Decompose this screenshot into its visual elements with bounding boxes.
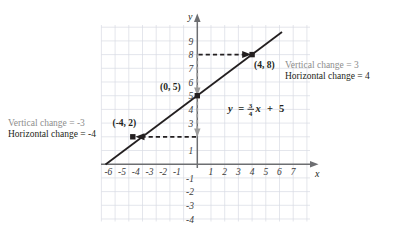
coordinate-plane: y x -6 -5 -4 -3 -2 -1 1 2 3 4 5 6 7 9 8 … [0,0,404,245]
equation-equals: = [238,103,244,114]
x-tick: 7 [291,167,297,177]
x-tick: -3 [146,167,154,177]
y-tick: 7 [189,64,195,74]
x-tick: 1 [209,167,214,177]
y-tick: -2 [186,187,194,197]
point-marker-neg4-2 [130,134,135,139]
equation-constant: 5 [279,103,284,114]
y-axis-arrowhead [194,14,201,23]
point-marker-4-8 [249,52,254,57]
x-tick-labels: -6 -5 -4 -3 -2 -1 1 2 3 4 5 6 7 [104,167,296,177]
y-tick: 4 [189,105,194,115]
x-axis-label: x [314,168,320,179]
y-tick: 6 [189,78,194,88]
axis-lines [101,14,319,169]
y-tick: 1 [189,146,194,156]
svg-text:y =: y = [226,103,244,114]
x-tick: -5 [118,167,126,177]
point-label-4-8: (4, 8) [254,60,275,71]
graph-figure: y x -6 -5 -4 -3 -2 -1 1 2 3 4 5 6 7 9 8 … [0,0,404,245]
svg-text:x + 5: x + 5 [255,103,285,114]
x-tick: 2 [222,167,227,177]
annotation-left-vertical: Vertical change = -3 [8,118,85,128]
x-tick: -6 [104,167,112,177]
x-tick: 4 [250,167,255,177]
x-tick: -2 [159,167,167,177]
y-tick: 8 [189,50,194,60]
y-tick: 9 [189,37,194,47]
y-tick: -4 [186,215,194,225]
point-label-neg4-2: (-4, 2) [113,118,137,129]
y-tick: 3 [188,119,194,129]
point-marker-0-5 [195,93,200,98]
annotation-left-horizontal: Horizontal change = -4 [8,129,96,139]
point-label-0-5: (0, 5) [160,82,181,93]
x-tick: 5 [263,167,268,177]
y-tick: -3 [186,201,194,211]
equation-numerator: 3 [249,102,253,110]
equation-lhs: y [226,103,233,114]
x-tick: 3 [235,167,241,177]
y-tick-labels: 9 8 7 6 5 4 3 1 -1 -2 -3 -4 [186,37,195,225]
y-tick: -1 [186,174,194,184]
function-line [106,32,283,165]
annotation-right-vertical: Vertical change = 3 [285,60,359,70]
annotation-right-horizontal: Horizontal change = 4 [285,71,370,81]
equation-variable: x [255,103,261,114]
x-tick: -1 [173,167,181,177]
equation-plus: + [267,103,273,114]
x-tick: -4 [132,167,140,177]
x-tick: 6 [277,167,282,177]
equation-denominator: 4 [249,110,253,118]
y-axis-label: y [187,11,193,22]
x-axis-arrowhead [310,161,319,167]
